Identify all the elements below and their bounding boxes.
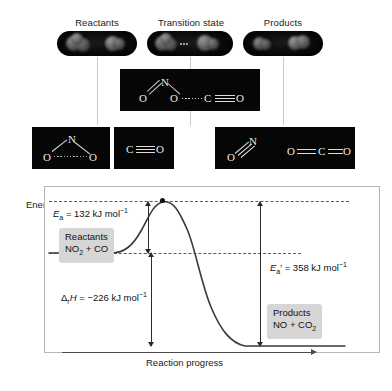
- bond-triple-top: [215, 95, 235, 96]
- atom-sphere: [71, 33, 83, 45]
- ea-value: = 132 kJ mol: [66, 208, 120, 219]
- panel-label-transition-state: Transition state: [143, 17, 239, 28]
- atom-sphere: [207, 38, 219, 50]
- ea-prime-exponent: −1: [339, 261, 347, 268]
- atom-sphere: [260, 39, 271, 50]
- atom-label-O: O: [156, 144, 164, 155]
- atom-label-O: O: [227, 152, 235, 163]
- x-axis-arrow: [62, 352, 312, 353]
- enthalpy-exponent: −1: [139, 291, 147, 298]
- atom-label-O-right: O: [343, 146, 351, 157]
- panel-noise: [114, 127, 174, 169]
- reactants-box-title: Reactants: [65, 231, 108, 243]
- reactants-species-no: NO: [65, 243, 79, 254]
- ea-exponent: −1: [120, 207, 128, 214]
- atom-label-C: C: [204, 93, 211, 104]
- model-pill-products: [243, 31, 323, 56]
- bond-co-top: [328, 149, 343, 150]
- atom-sphere: [160, 33, 172, 45]
- atom-label-O-right: O: [236, 93, 244, 104]
- atom-sphere: [296, 35, 310, 49]
- structure-panel-co: C O: [114, 127, 174, 169]
- reactants-species-co: + CO: [83, 243, 108, 254]
- panel-noise: [120, 69, 260, 111]
- figure-root: Reactants Transition state Products N O …: [0, 0, 392, 391]
- bond-triple-mid: [215, 98, 235, 99]
- enthalpy-value: = −226 kJ mol: [79, 292, 139, 303]
- transition-state-point: [160, 198, 165, 203]
- model-pill-reactants: [57, 31, 137, 56]
- atom-label-O-bridge: O: [170, 93, 178, 104]
- activation-energy-reverse-label: Ea′ = 358 kJ mol−1: [270, 261, 347, 275]
- panel-noise: [215, 127, 355, 169]
- bond-triple-mid: [136, 149, 155, 150]
- model-pill-transition-state: [147, 31, 233, 56]
- atom-label-O-left: O: [287, 146, 295, 157]
- atom-label-O-left: O: [43, 152, 51, 163]
- atom-label-O-left: O: [139, 93, 147, 104]
- atom-sphere: [113, 38, 125, 50]
- structure-panel-transition-state: N O O C O: [120, 69, 260, 111]
- structure-panel-products: N O O C O: [215, 127, 355, 169]
- bond-partial-o-c: [182, 98, 202, 99]
- bond-oc-bottom: [297, 153, 316, 154]
- activation-energy-arrow-forward: [148, 202, 149, 253]
- bond-triple-bottom: [136, 152, 155, 153]
- partial-bond-dots: [180, 43, 188, 45]
- enthalpy-change-arrow: [151, 253, 152, 346]
- bond-co-bottom: [328, 153, 343, 154]
- reactants-box: Reactants NO2 + CO: [59, 228, 114, 263]
- energy-profile-plot: Ea = 132 kJ mol−1 Reactants NO2 + CO Ea′…: [44, 186, 380, 353]
- panel-label-reactants: Reactants: [57, 17, 137, 28]
- connector-line-products: [283, 57, 284, 125]
- bond-triple-top: [136, 146, 155, 147]
- enthalpy-symbol: H: [70, 292, 77, 303]
- bond-triple-bottom: [215, 101, 235, 102]
- x-axis-label: Reaction progress: [146, 357, 223, 368]
- activation-energy-arrow-reverse: [260, 202, 261, 346]
- products-species-sub: 2: [312, 325, 316, 332]
- atom-label-C: C: [126, 144, 133, 155]
- products-species: NO + CO: [273, 319, 312, 330]
- panel-label-products: Products: [243, 17, 323, 28]
- reactants-box-species: NO2 + CO: [65, 243, 108, 259]
- ea-prime-value: = 358 kJ mol: [285, 262, 339, 273]
- ea-subscript: a: [59, 214, 63, 221]
- bond-delocalized: [54, 156, 88, 157]
- connector-line-reactants: [97, 57, 98, 125]
- products-box-species: NO + CO2: [273, 319, 316, 335]
- structure-panel-no2: N O O: [32, 127, 110, 169]
- plot-inner: Ea = 132 kJ mol−1 Reactants NO2 + CO Ea′…: [45, 187, 379, 352]
- enthalpy-change-label: ΔrH = −226 kJ mol−1: [61, 291, 147, 305]
- ea-prime-mark: ′: [280, 262, 282, 273]
- connector-line-transition-upper: [190, 57, 191, 69]
- connector-line-transition-lower: [190, 110, 191, 126]
- products-box: Products NO + CO2: [267, 304, 322, 339]
- products-box-title: Products: [273, 307, 316, 319]
- activation-energy-forward-label: Ea = 132 kJ mol−1: [53, 207, 128, 221]
- atom-label-C: C: [318, 146, 325, 157]
- bond-oc-top: [297, 149, 316, 150]
